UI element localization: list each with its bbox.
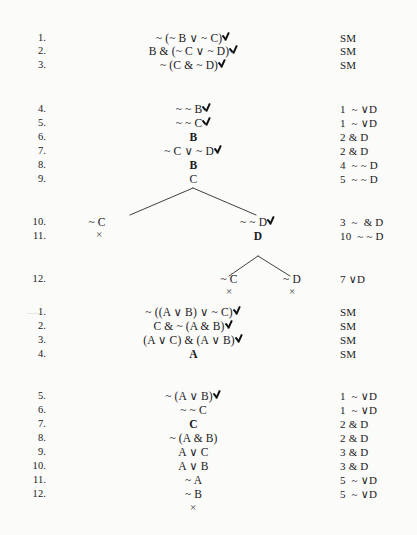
tree-node-right: ~ ~ D [240, 215, 276, 229]
line-justification: 2 & D [340, 130, 417, 144]
closure-mark: × [226, 285, 232, 297]
line-formula: ~ ((A ∨ B) ∨ ~ C) [0, 305, 387, 319]
line-number: 11. [0, 229, 46, 243]
line-formula: A ∨ B [0, 459, 387, 473]
proof-row: 9. A ∨ C 3 & D [0, 445, 417, 459]
line-formula: ~ ~ C [0, 116, 387, 130]
line-justification: 3 ~ & D [340, 215, 417, 229]
line-formula: ~ B [0, 487, 387, 501]
proof-row: 8. B 4 ~ ~ D [0, 158, 417, 172]
line-justification: 7 ∨D [340, 272, 417, 286]
check-mark-icon [213, 390, 222, 401]
proof-row: 8. ~ (A & B) 2 & D [0, 431, 417, 445]
line-justification: SM [340, 44, 417, 58]
line-formula: ~ (~ B ∨ ~ C) [0, 31, 387, 45]
line-formula: ~ ~ C [0, 403, 387, 417]
line-number: 10. [0, 215, 46, 229]
check-mark-icon [229, 45, 238, 56]
line-justification: 1 ~ ∨D [340, 389, 417, 403]
proof-row: 5. ~ ~ C 1 ~ ∨D [0, 116, 417, 130]
proof-block-1: 1. ~ (~ B ∨ ~ C) SM 2. B & (~ C ∨ ~ D) S… [0, 0, 417, 300]
line-justification: 1 ~ ∨D [340, 116, 417, 130]
tree-node-d: D [254, 229, 262, 243]
proof-row: 5. ~ (A ∨ B) 1 ~ ∨D [0, 389, 417, 403]
closure-mark: × [190, 501, 196, 513]
line-justification: 1 ~ ∨D [340, 403, 417, 417]
check-mark-icon [222, 32, 231, 43]
line-formula: B [0, 158, 387, 172]
proof-block-2: 1. ~ ((A ∨ B) ∨ ~ C) SM 2. C & ~ (A & B)… [0, 305, 417, 535]
line-formula: ~ (A ∨ B) [0, 389, 387, 403]
proof-row: 9. C 5 ~ ~ D [0, 172, 417, 186]
proof-page: 1. ~ (~ B ∨ ~ C) SM 2. B & (~ C ∨ ~ D) S… [0, 0, 417, 535]
check-mark-icon [233, 306, 242, 317]
check-mark-icon [225, 320, 234, 331]
line-justification: 5 ~ ~ D [340, 172, 417, 186]
proof-row: 12. ~ B 5 ~ ∨D [0, 487, 417, 501]
proof-row: 2. B & (~ C ∨ ~ D) SM [0, 44, 417, 58]
line-justification: 3 & D [340, 445, 417, 459]
proof-row: 11. ~ A 5 ~ ∨D [0, 473, 417, 487]
check-mark-icon [267, 216, 276, 227]
check-mark-icon [214, 145, 223, 156]
proof-row: 6. ~ ~ C 1 ~ ∨D [0, 403, 417, 417]
closure-mark: × [96, 228, 102, 240]
line-justification: 2 & D [340, 431, 417, 445]
check-mark-icon [218, 59, 227, 70]
line-justification: SM [340, 319, 417, 333]
line-formula: B [0, 130, 387, 144]
line-formula: (A ∨ C) & (A ∨ B) [0, 333, 387, 347]
proof-row: 12. ~ C ~ D 7 ∨D [0, 272, 417, 286]
line-justification: SM [340, 31, 417, 45]
proof-row: 10. ~ C ~ ~ D 3 ~ & D [0, 215, 417, 229]
line-justification: 2 & D [340, 417, 417, 431]
tree-node-subright: ~ D [283, 272, 301, 286]
tree-node-left: ~ C [88, 215, 105, 229]
line-formula: ~ (A & B) [0, 431, 387, 445]
line-formula: ~ A [0, 473, 387, 487]
line-formula: B & (~ C ∨ ~ D) [0, 44, 387, 58]
line-justification: 4 ~ ~ D [340, 158, 417, 172]
proof-row: 6. B 2 & D [0, 130, 417, 144]
proof-row: 11. 10 ~ ~ D [0, 229, 417, 243]
line-formula: ~ ~ B [0, 102, 387, 116]
closure-mark: × [289, 285, 295, 297]
line-formula: ~ C ∨ ~ D [0, 144, 387, 158]
line-formula: A [0, 347, 387, 361]
proof-row: 2. C & ~ (A & B) SM [0, 319, 417, 333]
line-formula: C [0, 417, 387, 431]
line-justification: 5 ~ ∨D [340, 487, 417, 501]
line-number: 12. [0, 272, 46, 286]
line-justification: 2 & D [340, 144, 417, 158]
line-formula: ~ (C & ~ D) [0, 58, 387, 72]
tree-node-subleft: ~ C [220, 272, 237, 286]
proof-row: 4. A SM [0, 347, 417, 361]
line-formula: C [0, 172, 387, 186]
proof-row: 3. (A ∨ C) & (A ∨ B) SM [0, 333, 417, 347]
line-justification: SM [340, 333, 417, 347]
line-justification: SM [340, 305, 417, 319]
proof-row: 7. C 2 & D [0, 417, 417, 431]
check-mark-icon [202, 103, 211, 114]
proof-row: 3. ~ (C & ~ D) SM [0, 58, 417, 72]
proof-row: 1. ~ ((A ∨ B) ∨ ~ C) SM [0, 305, 417, 319]
proof-row: 10. A ∨ B 3 & D [0, 459, 417, 473]
line-justification: 5 ~ ∨D [340, 473, 417, 487]
line-justification: 3 & D [340, 459, 417, 473]
line-formula: A ∨ C [0, 445, 387, 459]
line-justification: SM [340, 347, 417, 361]
line-formula: C & ~ (A & B) [0, 319, 387, 333]
check-mark-icon [235, 334, 244, 345]
proof-row: 1. ~ (~ B ∨ ~ C) SM [0, 31, 417, 45]
proof-row: 7. ~ C ∨ ~ D 2 & D [0, 144, 417, 158]
check-mark-icon [202, 117, 211, 128]
line-justification: 1 ~ ∨D [340, 102, 417, 116]
proof-row: 4. ~ ~ B 1 ~ ∨D [0, 102, 417, 116]
line-justification: 10 ~ ~ D [340, 229, 417, 243]
line-justification: SM [340, 58, 417, 72]
